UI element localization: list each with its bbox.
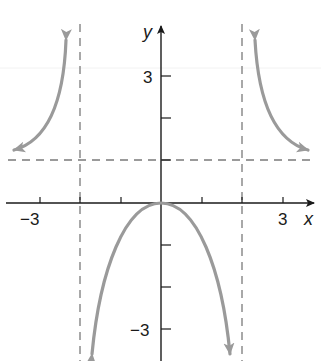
- x-axis-label: x: [303, 209, 314, 229]
- y-tick-label-neg3: −3: [130, 321, 149, 340]
- right-branch-curve: [255, 40, 308, 150]
- y-axis-label: y: [141, 22, 153, 42]
- axes: [6, 26, 314, 361]
- graph-canvas: y x −3 3 3 −3: [0, 0, 321, 361]
- y-tick-label-pos3: 3: [143, 68, 152, 87]
- x-tick-label-pos3: 3: [278, 210, 287, 229]
- left-branch-curve: [14, 40, 66, 150]
- x-tick-label-neg3: −3: [20, 210, 39, 229]
